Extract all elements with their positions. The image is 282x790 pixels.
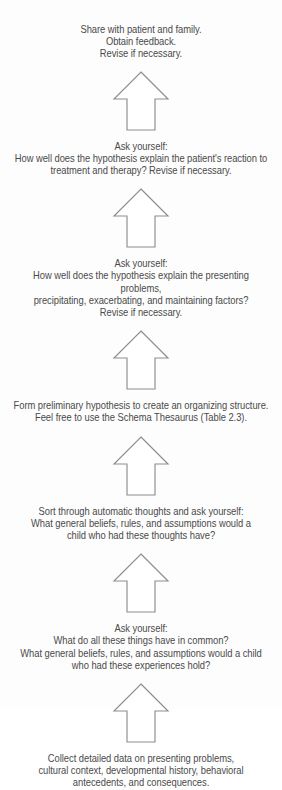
spacer-after-step-4	[141, 425, 142, 435]
up-arrow-icon-1	[111, 682, 171, 744]
up-arrow-icon-3	[111, 435, 171, 497]
flowchart-step-form-preliminary-hypothesis: Form preliminary hypothesis to create an…	[12, 400, 271, 424]
up-arrow-icon-2	[111, 552, 171, 614]
spacer-after-arrow-3	[141, 497, 142, 506]
flowchart-step-share-with-patient: Share with patient and family. Obtain fe…	[12, 24, 271, 61]
spacer-after-arrow-4	[141, 391, 142, 400]
top-spacer	[141, 0, 142, 24]
spacer-after-arrow-1	[141, 744, 142, 753]
flowchart-step-evaluate-presenting-problems: Ask yourself: How well does the hypothes…	[12, 258, 271, 319]
flowchart-step-evaluate-patient-reaction: Ask yourself: How well does the hypothes…	[12, 141, 271, 178]
spacer-after-step-6	[141, 177, 142, 187]
flowchart-step-find-common-themes: Ask yourself: What do all these things h…	[12, 623, 271, 672]
spacer-after-step-3	[141, 542, 142, 552]
spacer-after-arrow-5	[141, 249, 142, 258]
up-arrow-icon-4	[111, 329, 171, 391]
spacer-after-step-5	[141, 319, 142, 329]
spacer-after-arrow-2	[141, 614, 142, 623]
spacer-after-step-2	[141, 672, 142, 682]
flowchart-step-sort-automatic-thoughts: Sort through automatic thoughts and ask …	[12, 506, 271, 543]
spacer-after-arrow-6	[141, 132, 142, 141]
spacer-after-step-7	[141, 61, 142, 70]
flowchart-step-collect-detailed-data: Collect detailed data on presenting prob…	[12, 753, 271, 790]
up-arrow-icon-5	[111, 187, 171, 249]
up-arrow-icon-6	[111, 70, 171, 132]
